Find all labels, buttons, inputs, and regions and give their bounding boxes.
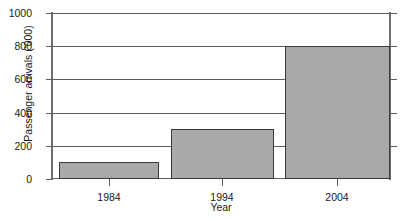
y-tick-mark-1000 [46,13,53,14]
bar-1994[interactable] [171,129,274,179]
y-tick-label-800: 800 [0,40,32,52]
y-tick-mark-600 [46,79,53,80]
bar-chart: Passenger arrivals ('000) 1000 800 600 4… [0,0,403,220]
y-tick-mark-right-1000 [390,13,397,14]
bar-1984[interactable] [59,162,159,179]
plot-area: 1000 800 600 400 200 0 1984 1994 2004 [52,13,390,179]
y-tick-label-600: 600 [0,73,32,85]
y-tick-label-400: 400 [0,107,32,119]
y-tick-label-200: 200 [0,140,32,152]
y-tick-mark-right-400 [390,113,397,114]
y-tick-mark-800 [46,46,53,47]
y-tick-mark-400 [46,113,53,114]
x-tick-mark-2004 [337,179,338,186]
x-tick-mark-1994 [222,179,223,186]
x-axis-title: Year [52,201,390,213]
y-tick-mark-0 [46,179,53,180]
y-tick-mark-right-200 [390,146,397,147]
x-tick-mark-1984 [109,179,110,186]
bar-2004[interactable] [285,46,390,179]
gridline-1000 [52,13,390,14]
y-tick-label-1000: 1000 [0,7,32,19]
y-tick-mark-right-600 [390,79,397,80]
y-tick-mark-200 [46,146,53,147]
y-tick-mark-right-800 [390,46,397,47]
y-tick-label-0: 0 [0,173,32,185]
